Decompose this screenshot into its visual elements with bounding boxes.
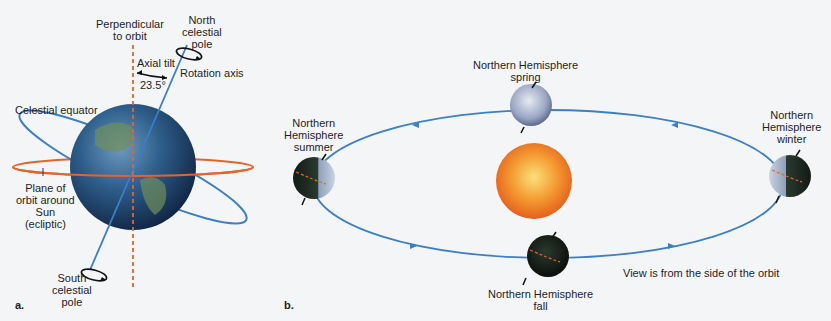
label-south-pole: South celestial pole — [52, 272, 92, 308]
label-line: Plane of — [16, 182, 75, 194]
panel-letter-a: a. — [15, 299, 24, 311]
label-line: North — [182, 14, 222, 26]
label-line: pole — [182, 38, 222, 50]
label-winter: Northern Hemisphere winter — [762, 109, 821, 145]
earth-fall — [527, 235, 569, 277]
label-line: celestial — [52, 284, 92, 296]
earth-summer — [293, 157, 335, 199]
label-line: celestial — [182, 26, 222, 38]
label-line: Northern — [284, 117, 343, 129]
label-summer: Northern Hemisphere summer — [284, 117, 343, 153]
label-line: orbit around — [16, 194, 75, 206]
label-line: pole — [52, 296, 92, 308]
label-rotation-axis: Rotation axis — [180, 67, 244, 79]
sun — [496, 143, 572, 219]
label-perpendicular: Perpendicular to orbit — [96, 18, 164, 42]
label-line: Sun — [16, 206, 75, 218]
label-line: Northern — [762, 109, 821, 121]
label-axial-tilt: Axial tilt — [137, 57, 175, 69]
label-line: Hemisphere — [762, 121, 821, 133]
label-view-note: View is from the side of the orbit — [623, 267, 779, 279]
earth-winter — [769, 155, 811, 197]
label-line: spring — [473, 71, 578, 83]
label-line: Northern Hemisphere — [488, 288, 593, 300]
label-line: to orbit — [96, 30, 164, 42]
label-line: Perpendicular — [96, 18, 164, 30]
earth-spring — [510, 84, 552, 126]
label-line: fall — [488, 300, 593, 312]
label-spring: Northern Hemisphere spring — [473, 59, 578, 83]
panel-letter-b: b. — [284, 299, 294, 311]
label-celestial-equator: Celestial equator — [15, 104, 98, 116]
label-fall: Northern Hemisphere fall — [488, 288, 593, 312]
label-line: winter — [762, 133, 821, 145]
label-plane-of-orbit: Plane of orbit around Sun (ecliptic) — [16, 182, 75, 230]
label-line: Northern Hemisphere — [473, 59, 578, 71]
label-line: summer — [284, 141, 343, 153]
label-line: Hemisphere — [284, 129, 343, 141]
label-tilt-angle: 23.5° — [140, 79, 166, 91]
label-line: (ecliptic) — [16, 218, 75, 230]
label-north-pole: North celestial pole — [182, 14, 222, 50]
label-line: South — [52, 272, 92, 284]
